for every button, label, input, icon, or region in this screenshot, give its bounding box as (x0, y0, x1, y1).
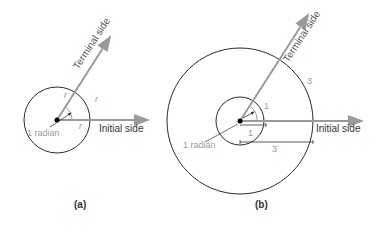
initial-label-a: Initial side (99, 123, 143, 134)
caption-a: (a) (74, 199, 86, 210)
initial-label-b: Initial side (316, 123, 360, 134)
caption-b: (b) (255, 199, 268, 210)
angle-label-b: 1 radian (183, 140, 216, 150)
radian-diagram (0, 0, 381, 227)
radius-label-a-2: r (95, 94, 98, 104)
center-point-b (238, 119, 243, 124)
radius-label-a-1: r (64, 90, 67, 100)
arc-small-label-b: 1 (264, 101, 269, 111)
angle-arc-b (251, 107, 257, 121)
arc-large-label-b: 3 (307, 76, 312, 86)
radius-large-label-b: 3 (272, 144, 277, 154)
radius-small-label-b: 1 (248, 128, 253, 138)
angle-label-a: 1 radian (27, 128, 60, 138)
center-point-a (55, 118, 60, 123)
radius-label-a-3: r (79, 121, 82, 131)
